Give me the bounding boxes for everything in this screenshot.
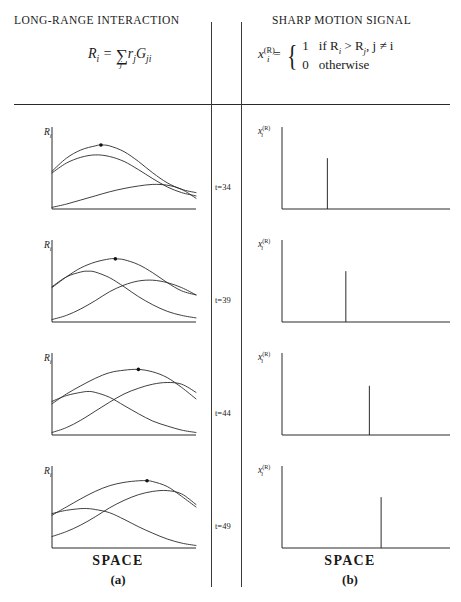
peak-marker [145,479,149,483]
peak-marker [114,257,118,261]
y-axis-label-sub: i [261,244,263,251]
axes [282,240,450,322]
y-axis-label-sub: i [50,132,52,139]
formula-lhs: x(R)i [258,46,269,61]
panel-row-2: Rix(R)i [0,339,461,449]
time-label-1: t=39 [215,295,231,305]
time-label-3: t=49 [215,521,231,531]
axes [52,466,196,548]
formula-equals: = [273,46,282,61]
y-axis-label-x: x(R)i [258,238,263,251]
y-axis-label-sup: (R) [262,464,270,470]
axes [282,127,450,209]
formula-equals: = [103,46,112,61]
formula-lhs: Ri [88,46,99,61]
curve-curve-1 [52,369,196,403]
curve-curve-2 [52,391,196,432]
y-axis-label-sup: (R) [262,238,270,244]
y-axis-label-sub: i [261,357,263,364]
plot-long-range-1: Ri [28,226,198,336]
caption-panel-a: SPACE (a) [58,553,178,588]
y-axis-label-x: x(R)i [258,464,263,477]
y-axis-label-sub: i [50,471,52,478]
curve-curve-3 [52,490,196,536]
panel-row-3: Rix(R)i [0,452,461,562]
formula-sharp-motion: x(R)i = { 1 if Ri > Rj, j ≠ i 0 otherwis… [258,38,393,73]
formula-term-g: Gji [136,46,151,61]
axes [282,353,450,435]
plot-sharp-signal-2: x(R)i [252,339,452,449]
axes [52,240,196,322]
plot-sharp-signal-1: x(R)i [252,226,452,336]
panel-row-1: Rix(R)i [0,226,461,336]
axes [282,466,450,548]
caption-b-tag: (b) [290,572,410,588]
y-axis-label-sub: i [261,470,263,477]
y-axis-label-R: Ri [44,466,52,478]
peak-marker [137,368,141,372]
curve-curve-3 [52,184,196,207]
panel-row-0: Rix(R)i [0,113,461,223]
plot-long-range-0: Ri [28,113,198,223]
formula-long-range: Ri = ∑jrjGji [88,46,151,64]
case-1-value: 1 [302,38,309,56]
curve-curve-2 [52,271,196,318]
y-axis-label-sub: i [50,245,52,252]
y-axis-label-sub: i [261,131,263,138]
plot-long-range-2: Ri [28,339,198,449]
plot-long-range-3: Ri [28,452,198,562]
summation-symbol: ∑j [116,47,128,64]
y-axis-label-R: Ri [44,240,52,252]
curve-curve-1 [52,145,196,193]
curve-curve-2 [52,155,196,196]
case-2-value: 0 [302,57,309,73]
time-label-0: t=34 [215,182,231,192]
y-axis-label-R: Ri [44,127,52,139]
y-axis-label-x: x(R)i [258,125,263,138]
curve-curve-1 [52,481,196,516]
case-2-condition: otherwise [319,57,394,73]
y-axis-label-x: x(R)i [258,351,263,364]
caption-a-space: SPACE [58,553,178,569]
y-axis-label-sub: i [50,358,52,365]
formula-term-r: rj [128,46,136,61]
case-1-condition: if Ri > Rj, j ≠ i [319,38,394,56]
caption-panel-b: SPACE (b) [290,553,410,588]
peak-marker [99,143,103,147]
y-axis-label-R: Ri [44,353,52,365]
case-brace: { [287,41,297,68]
y-axis-label-sup: (R) [262,125,270,131]
plot-sharp-signal-3: x(R)i [252,452,452,562]
header-horizontal-rule [14,104,450,105]
column-title-right: SHARP MOTION SIGNAL [272,14,411,26]
figure-root: LONG-RANGE INTERACTION SHARP MOTION SIGN… [0,0,461,602]
time-label-2: t=44 [215,408,231,418]
curve-curve-2 [52,508,196,545]
plot-sharp-signal-0: x(R)i [252,113,452,223]
caption-b-space: SPACE [290,553,410,569]
curve-curve-1 [52,259,196,295]
column-title-left: LONG-RANGE INTERACTION [14,14,179,26]
y-axis-label-sup: (R) [262,351,270,357]
caption-a-tag: (a) [58,572,178,588]
cases-block: 1 if Ri > Rj, j ≠ i 0 otherwise [302,38,393,73]
axes [52,127,196,209]
